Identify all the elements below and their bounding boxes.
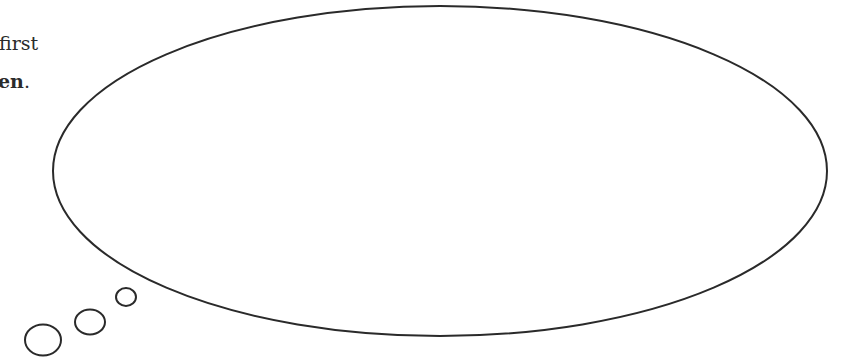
thought-dot-small-icon — [116, 288, 136, 306]
thought-dot-large-icon — [25, 325, 61, 356]
thought-bubble — [0, 0, 858, 364]
thought-bubble-ellipse — [53, 6, 827, 336]
thought-dot-medium-icon — [75, 310, 105, 335]
